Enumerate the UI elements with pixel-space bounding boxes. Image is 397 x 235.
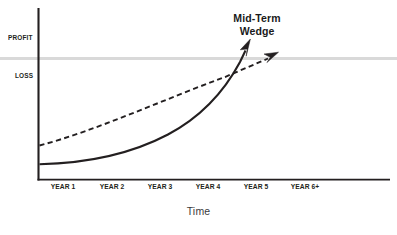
x-axis-tick-year-2: YEAR 2	[100, 182, 125, 191]
chart-container: PROFIT LOSS YEAR 1 YEAR 2 YEAR 3 YEAR 4 …	[0, 0, 397, 235]
x-axis-title: Time	[0, 205, 397, 217]
y-axis-label-profit: PROFIT	[8, 33, 33, 42]
y-axis-label-loss: LOSS	[15, 71, 33, 80]
x-axis-tick-year-3: YEAR 3	[148, 182, 173, 191]
series-line-organic-growth	[40, 51, 246, 165]
x-axis-tick-year-1: YEAR 1	[51, 182, 76, 191]
annotation-mid-term-wedge: Mid-Term Wedge	[197, 12, 317, 37]
x-axis-tick-year-6-plus: YEAR 6+	[291, 182, 320, 191]
x-axis-tick-year-5: YEAR 5	[244, 182, 269, 191]
annotation-line-2: Wedge	[197, 25, 317, 38]
series-arrowhead-organic-growth	[240, 39, 250, 56]
x-axis-tick-year-4: YEAR 4	[196, 182, 221, 191]
annotation-line-1: Mid-Term	[197, 12, 317, 25]
